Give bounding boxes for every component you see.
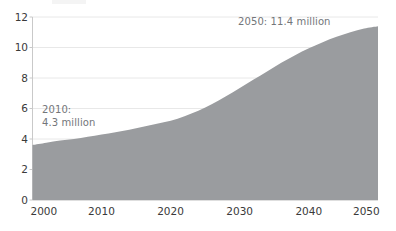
annotation-2010-line1: 2010: (42, 104, 71, 115)
x-tick-label-2050: 2050 (353, 206, 380, 217)
y-axis-tick-labels: 024681012 (0, 0, 28, 231)
y-tick-label-2: 2 (4, 164, 28, 175)
annotation-2010-value: 2010:4.3 million (42, 104, 96, 129)
y-tick-label-12: 12 (4, 12, 28, 23)
x-tick-label-2000: 2000 (31, 206, 58, 217)
x-tick-label-2030: 2030 (226, 206, 253, 217)
annotation-2010-line2: 4.3 million (42, 117, 96, 128)
annotation-peak-value: 2050: 11.4 million (238, 16, 331, 29)
x-tick-label-2040: 2040 (295, 206, 322, 217)
x-tick-label-2020: 2020 (157, 206, 184, 217)
y-tick-label-8: 8 (4, 73, 28, 84)
y-tick-label-0: 0 (4, 195, 28, 206)
area-chart: 024681012 200020102020203020402050 2050:… (0, 0, 396, 231)
y-tick-label-4: 4 (4, 134, 28, 145)
x-tick-label-2010: 2010 (88, 206, 115, 217)
y-tick-label-6: 6 (4, 103, 28, 114)
y-tick-label-10: 10 (4, 42, 28, 53)
